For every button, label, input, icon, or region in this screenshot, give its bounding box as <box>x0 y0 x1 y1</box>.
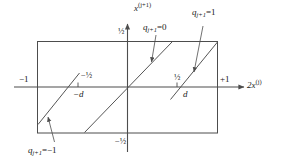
leader-q-zero <box>152 35 157 62</box>
y-tick-label-half: ½ <box>118 27 124 36</box>
annotation-q-zero: qj+1=0 <box>143 23 167 32</box>
x-tick-label-plus-half: ½ <box>174 73 180 82</box>
annotation-q-minus-one: qj+1=−1 <box>28 146 57 155</box>
leader-q-minus-one <box>48 117 55 142</box>
x-tick-label-plus-d: d <box>183 90 188 99</box>
x-tick-label-minus-d: −d <box>73 90 84 99</box>
y-axis-label: x(j+1) <box>134 4 151 13</box>
x-tick-label-minus-one: −1 <box>19 75 29 84</box>
annotation-q-one: qj+1=1 <box>192 8 216 17</box>
x-tick-label-minus-half: −½ <box>81 71 92 80</box>
x-tick-label-plus-one: +1 <box>220 75 230 84</box>
x-axis-label: 2x(j) <box>247 81 262 90</box>
quantizer-transfer-diagram: x(j+1) 2x(j) ½ −½ −1 +1 −½ ½ −d d qj+1=0… <box>0 0 285 168</box>
y-tick-label-minus-half: −½ <box>115 137 126 146</box>
